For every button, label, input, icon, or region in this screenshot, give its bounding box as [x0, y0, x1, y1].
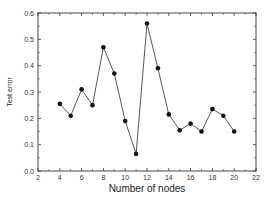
- data-point-marker: [232, 129, 237, 134]
- y-tick-label: 0.6: [24, 10, 34, 17]
- data-point-marker: [112, 71, 117, 76]
- x-tick-label: 12: [143, 174, 151, 181]
- x-tick-label: 16: [187, 174, 195, 181]
- x-tick-label: 14: [165, 174, 173, 181]
- data-point-marker: [58, 102, 63, 107]
- data-point-marker: [199, 129, 204, 134]
- data-point-marker: [123, 119, 128, 124]
- line-chart: 0.00.10.20.30.40.50.6 246810121416182022…: [0, 0, 271, 201]
- data-point-marker: [101, 45, 106, 50]
- y-tick-label: 0.0: [24, 168, 34, 175]
- x-tick-label: 10: [121, 174, 129, 181]
- data-point-marker: [90, 103, 95, 108]
- data-point-marker: [177, 128, 182, 133]
- y-axis: 0.00.10.20.30.40.50.6: [24, 10, 256, 175]
- data-point-marker: [167, 112, 172, 117]
- x-tick-label: 4: [58, 174, 62, 181]
- x-tick-label: 8: [101, 174, 105, 181]
- x-tick-label: 6: [80, 174, 84, 181]
- data-series: [58, 21, 237, 156]
- y-tick-label: 0.1: [24, 141, 34, 148]
- data-point-marker: [188, 121, 193, 126]
- y-tick-label: 0.3: [24, 89, 34, 96]
- data-point-marker: [145, 21, 150, 26]
- y-tick-label: 0.4: [24, 62, 34, 69]
- y-tick-label: 0.5: [24, 36, 34, 43]
- x-tick-label: 20: [230, 174, 238, 181]
- x-tick-label: 2: [36, 174, 40, 181]
- data-point-marker: [210, 107, 215, 112]
- plot-border: [38, 13, 256, 171]
- x-tick-label: 18: [209, 174, 217, 181]
- data-point-marker: [79, 87, 84, 92]
- y-axis-title: Test error: [6, 77, 13, 107]
- data-point-marker: [156, 66, 161, 71]
- x-tick-label: 22: [252, 174, 260, 181]
- x-axis-title: Number of nodes: [109, 183, 186, 194]
- x-axis: 246810121416182022: [36, 13, 260, 181]
- series-line: [60, 24, 234, 154]
- data-point-marker: [134, 152, 139, 157]
- y-tick-label: 0.2: [24, 115, 34, 122]
- plot-frame: [38, 13, 256, 171]
- data-point-marker: [68, 113, 73, 118]
- data-point-marker: [221, 113, 226, 118]
